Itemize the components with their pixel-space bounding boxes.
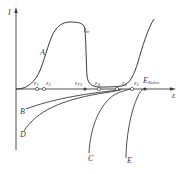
marker-e3 — [42, 87, 45, 90]
potential-e2-label: ε2 — [122, 80, 127, 88]
marker-e5 — [130, 87, 133, 90]
marker-e4 — [97, 87, 100, 90]
curve-b-label: B — [20, 108, 25, 116]
potential-ep2-label: εP2 — [75, 80, 82, 88]
eredox-sub: Redox — [148, 80, 159, 85]
polarization-diagram — [0, 0, 186, 174]
curve-a-label: A — [40, 49, 45, 57]
e1-sub: 1 — [36, 82, 38, 87]
ikr-sub: kr — [86, 29, 90, 34]
potential-eredox-label: ERedox — [143, 77, 159, 86]
ep2-sub: P2 — [77, 82, 82, 87]
marker-e2 — [115, 87, 118, 90]
curve-d — [24, 89, 122, 131]
curve-c-label: C — [88, 155, 93, 163]
curve-c — [89, 89, 131, 153]
curve-e — [126, 89, 144, 158]
potential-e1-label: ε1 — [34, 80, 39, 88]
y-axis-arrow-icon — [14, 7, 17, 13]
e2-sub: 2 — [124, 82, 126, 87]
y-axis-label: I — [8, 9, 11, 17]
potential-e5-label: ε5 — [134, 80, 139, 88]
curve-e-label: E — [127, 157, 132, 165]
potential-e4-label: ε4 — [95, 80, 100, 88]
marker-e1 — [35, 87, 38, 90]
marker-ep2 — [84, 88, 87, 91]
marker-eredox — [144, 88, 147, 91]
e5-sub: 5 — [136, 82, 138, 87]
e4-sub: 4 — [97, 82, 99, 87]
critical-current-label: Ikr — [84, 27, 90, 35]
e3-sub: 3 — [48, 82, 50, 87]
curve-d-label: D — [20, 131, 26, 139]
x-axis-label: ε — [172, 92, 175, 100]
potential-e3-label: ε3 — [46, 80, 51, 88]
